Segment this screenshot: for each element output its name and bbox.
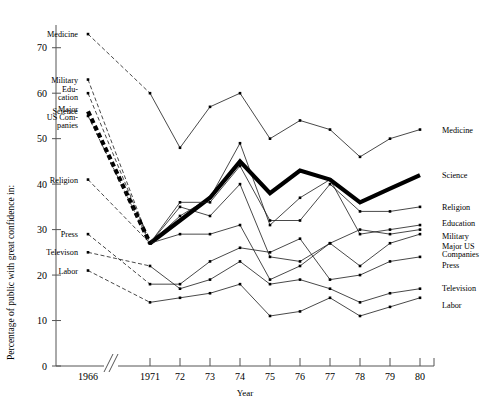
chart-figure: Percentage of public with great confiden… [0, 0, 482, 410]
data-point [269, 251, 272, 254]
left-label-religion: Religion [50, 176, 78, 185]
data-point [269, 278, 272, 281]
series-segment-dashed [88, 180, 150, 244]
data-point [359, 156, 362, 159]
data-point [389, 242, 392, 245]
left-label-medicine: Medicine [47, 30, 78, 39]
data-point [179, 287, 182, 290]
right-label-medicine: Medicine [442, 126, 473, 135]
data-point [269, 283, 272, 286]
data-point [269, 219, 272, 222]
data-point [419, 228, 422, 231]
data-point [389, 137, 392, 140]
data-point [299, 196, 302, 199]
data-point [329, 128, 332, 131]
data-point [239, 246, 242, 249]
right-label-military: Military [442, 232, 470, 241]
data-point [209, 278, 212, 281]
series-segment-dashed [88, 234, 150, 284]
data-point [299, 119, 302, 122]
x-tick-label: 78 [355, 371, 365, 382]
left-label-major-us-companies: panies [57, 121, 78, 130]
data-point [179, 283, 182, 286]
data-point [239, 142, 242, 145]
y-tick-label: 20 [37, 270, 47, 281]
y-tick-label: 40 [37, 179, 47, 190]
data-point [299, 260, 302, 263]
data-point [149, 92, 152, 95]
right-label-press: Press [442, 261, 459, 270]
data-point [87, 233, 90, 236]
data-point [419, 233, 422, 236]
x-tick-label: 1971 [140, 371, 160, 382]
x-tick-label: 1966 [78, 371, 98, 382]
series-segment-dashed [88, 34, 150, 93]
data-point [209, 292, 212, 295]
x-tick-label: 72 [175, 371, 185, 382]
data-point [299, 219, 302, 222]
data-point [329, 287, 332, 290]
data-point [239, 183, 242, 186]
series-segment-dashed [88, 111, 150, 243]
data-point [359, 301, 362, 304]
data-point [179, 201, 182, 204]
series-line [150, 166, 420, 243]
data-point [239, 260, 242, 263]
data-point [209, 215, 212, 218]
left-label-military: Military [51, 76, 79, 85]
x-tick-label: 73 [205, 371, 215, 382]
data-point [239, 224, 242, 227]
left-series-labels: MedicineMilitaryEdu-cationScienceMajorUS… [46, 30, 79, 275]
series-science [88, 111, 420, 243]
data-point [269, 315, 272, 318]
y-tick-label: 60 [37, 88, 47, 99]
right-label-labor: Labor [442, 301, 462, 310]
series-line [150, 239, 420, 284]
data-point [389, 292, 392, 295]
data-point [209, 260, 212, 263]
left-label-press: Press [61, 230, 78, 239]
data-point [329, 297, 332, 300]
x-tick-label: 76 [295, 371, 305, 382]
data-point [87, 251, 90, 254]
series-segment-dashed [88, 271, 150, 303]
data-point [269, 256, 272, 259]
data-point [419, 256, 422, 259]
series-press [87, 233, 422, 286]
data-point [149, 283, 152, 286]
data-point [419, 224, 422, 227]
data-point [179, 146, 182, 149]
data-point [239, 92, 242, 95]
data-point [179, 297, 182, 300]
y-axis-title: Percentage of public with great confiden… [6, 185, 16, 360]
y-tick-label: 70 [37, 42, 47, 53]
left-label-education: cation [58, 93, 78, 102]
data-point [359, 274, 362, 277]
data-point [359, 228, 362, 231]
data-point [419, 287, 422, 290]
left-label-labor: Labor [58, 267, 78, 276]
right-label-television: Television [442, 284, 476, 293]
data-point [269, 137, 272, 140]
data-point [419, 128, 422, 131]
x-tick-label: 80 [415, 371, 425, 382]
data-point [179, 206, 182, 209]
data-point [359, 315, 362, 318]
data-point [389, 228, 392, 231]
data-point [209, 106, 212, 109]
data-point [389, 210, 392, 213]
data-point [359, 210, 362, 213]
y-tick-label: 50 [37, 133, 47, 144]
y-tick-label: 30 [37, 224, 47, 235]
x-tick-label: 77 [325, 371, 335, 382]
data-point [87, 269, 90, 272]
data-point [87, 92, 90, 95]
data-point [239, 283, 242, 286]
data-point [179, 233, 182, 236]
data-point [329, 183, 332, 186]
data-point [359, 265, 362, 268]
data-point [149, 242, 152, 245]
series-line [150, 284, 420, 316]
y-tick-label: 10 [37, 315, 47, 326]
series-layer [87, 33, 422, 317]
